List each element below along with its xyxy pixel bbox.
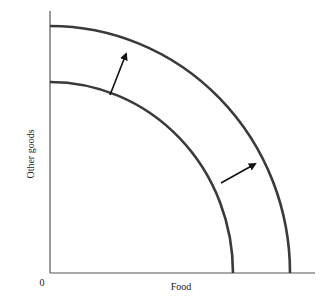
- shift-arrow-lower: [221, 164, 255, 183]
- origin-label: 0: [40, 277, 45, 288]
- y-axis-label: Other goods: [25, 129, 36, 178]
- shifted-ppf-curve: [50, 26, 290, 273]
- shift-arrow-upper: [110, 54, 126, 95]
- x-axis-label: Food: [171, 281, 192, 292]
- ppf-diagram: 0 Food Other goods: [0, 0, 321, 300]
- original-ppf-curve: [50, 82, 233, 273]
